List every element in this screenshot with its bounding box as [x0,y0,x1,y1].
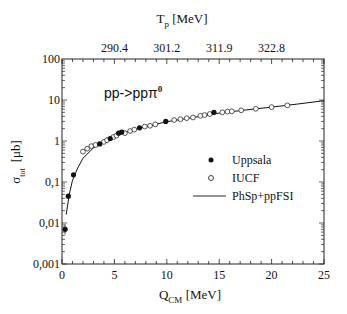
x-axis-title: QCM [MeV] [159,287,221,305]
plot-area-border [62,59,324,264]
iucf-point [81,149,86,154]
uppsala-point [211,110,216,115]
y-axis-title: σtot[μb] [8,140,27,184]
top-tick-label: 290.4 [101,41,128,55]
legend-label-iucf: IUCF [232,171,260,185]
chart: 0510152025290.4301.2311.9322.80,0010,010… [0,0,347,314]
filled-circle-icon [209,158,214,163]
y-tick-label: 1 [54,134,60,148]
legend-label-uppsala: Uppsala [232,153,272,167]
svg-text:σtot[μb]: σtot[μb] [8,140,27,184]
iucf-point [142,124,147,129]
x-tick-label: 15 [213,268,225,282]
uppsala-point [66,194,71,199]
iucf-point [132,127,137,132]
legend-label-phsp: PhSp+ppFSI [232,189,293,203]
top-axis-title: Tp [MeV] [156,11,207,29]
y-tick-label: 0,001 [33,257,60,271]
uppsala-point [119,129,124,134]
y-tick-label: 0,01 [39,216,60,230]
iucf-point [220,110,225,115]
top-tick-label: 322.8 [258,41,285,55]
top-tick-label: 301.2 [153,41,180,55]
axis-ticks [62,59,324,264]
iucf-point [229,109,234,114]
open-circle-icon [209,176,214,181]
uppsala-point [163,119,168,124]
y-tick-label: 10 [48,93,60,107]
uppsala-point [71,172,76,177]
legend: Uppsala IUCF PhSp+ppFSI [193,153,293,203]
y-tick-label: 100 [42,52,60,66]
data-markers [63,103,290,234]
iucf-point [172,118,177,123]
iucf-point [269,105,274,110]
axis-tick-labels: 0510152025290.4301.2311.9322.80,0010,010… [33,41,330,282]
iucf-point [178,117,183,122]
uppsala-point [137,125,142,130]
iucf-point [148,123,153,128]
x-tick-label: 20 [266,268,278,282]
iucf-point [153,122,158,127]
iucf-point [239,108,244,113]
iucf-point [202,113,207,118]
y-tick-label: 0,1 [45,175,60,189]
reaction-annotation: pp->ppπ0 [104,84,163,101]
uppsala-point [108,136,113,141]
top-tick-label: 311.9 [206,41,233,55]
uppsala-point [97,141,102,146]
iucf-point [253,106,258,111]
plot-frame [62,59,324,264]
iucf-point [285,103,290,108]
x-tick-label: 10 [161,268,173,282]
iucf-point [184,116,189,121]
iucf-point [191,115,196,120]
x-tick-label: 5 [111,268,117,282]
x-tick-label: 25 [318,268,330,282]
